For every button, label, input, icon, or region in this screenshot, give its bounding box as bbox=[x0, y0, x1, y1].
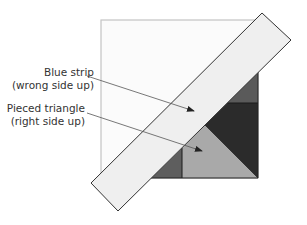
blue-strip-label-line1: Blue strip bbox=[12, 66, 94, 79]
blue-strip-label-line2: (wrong side up) bbox=[12, 79, 94, 92]
blue-strip-label: Blue strip (wrong side up) bbox=[12, 66, 94, 91]
pieced-triangle-label-line2: (right side up) bbox=[7, 115, 85, 128]
pieced-triangle-label-line1: Pieced triangle bbox=[7, 102, 85, 115]
pieced-triangle-label: Pieced triangle (right side up) bbox=[7, 102, 85, 127]
